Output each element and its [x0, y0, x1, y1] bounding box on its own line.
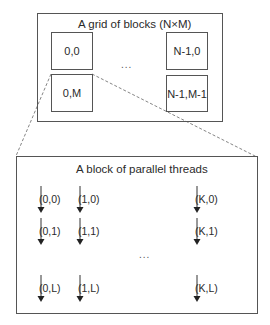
- block-title: A block of parallel threads: [76, 163, 208, 175]
- block-0-0: 0,0: [51, 32, 93, 70]
- thread-0-1: (0,1): [36, 218, 76, 246]
- thread-label: (1,0): [78, 193, 100, 205]
- block-0-m: 0,M: [51, 74, 93, 112]
- thread-0-l: (0,L): [36, 275, 76, 303]
- block-n-1-m-1: N-1,M-1: [166, 75, 208, 112]
- thread-label: (0,1): [39, 225, 61, 237]
- thread-k-0: (K,0): [192, 186, 232, 214]
- thread-k-l: (K,L): [192, 275, 232, 303]
- block-n-1-0: N-1,0: [166, 32, 208, 70]
- thread-label: (0,L): [39, 282, 61, 294]
- threads-ellipsis: ...: [139, 249, 150, 260]
- thread-1-1: (1,1): [75, 218, 115, 246]
- thread-label: (1,1): [78, 225, 100, 237]
- thread-label: (K,1): [195, 225, 218, 237]
- thread-1-0: (1,0): [75, 186, 115, 214]
- thread-label: (1,L): [78, 282, 100, 294]
- grid-ellipsis: ...: [121, 59, 132, 70]
- thread-label: (0,0): [39, 193, 61, 205]
- grid-title: A grid of blocks (N×M): [78, 18, 191, 30]
- thread-k-1: (K,1): [192, 218, 232, 246]
- thread-label: (K,L): [195, 282, 218, 294]
- thread-1-l: (1,L): [75, 275, 115, 303]
- thread-0-0: (0,0): [36, 186, 76, 214]
- thread-label: (K,0): [195, 193, 218, 205]
